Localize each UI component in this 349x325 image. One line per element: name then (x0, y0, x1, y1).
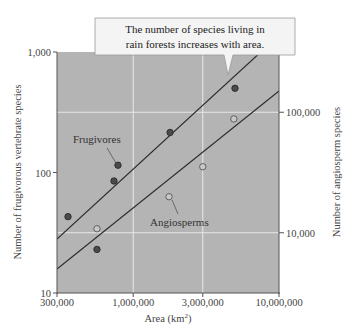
plot-area (57, 52, 279, 293)
y-axis-title: Number of frugivorous vertebrate species (12, 85, 23, 260)
y-tick-label: 10 (41, 288, 52, 299)
angiosperms-label: Angiosperms (150, 216, 209, 228)
frugivores-point (232, 85, 238, 91)
callout-line-2: rain forests increases with area. (126, 38, 265, 50)
y-tick-label: 1,000 (27, 47, 51, 58)
frugivores-point (65, 213, 71, 219)
y2-tick-label: 100,000 (286, 107, 320, 118)
y-tick-label: 100 (35, 168, 51, 179)
angiosperms-point (166, 194, 172, 200)
frugivores-label: Frugivores (73, 133, 121, 145)
frugivores-point (94, 246, 100, 252)
x-tick-label: 3,000,000 (182, 297, 224, 308)
angiosperms-point (94, 226, 100, 232)
frugivores-point (111, 178, 117, 184)
angiosperms-point (200, 164, 206, 170)
x-axis-title: Area (km2) (145, 312, 192, 325)
y2-axis-title: Number of angiosperm species (331, 107, 342, 237)
x-tick-label: 1,000,000 (112, 297, 154, 308)
x-tick-label: 10,000,000 (255, 297, 302, 308)
angiosperms-point (231, 116, 237, 122)
species-area-chart: 300,0001,000,0003,000,00010,000,00010,00… (0, 0, 349, 325)
callout-line-1: The number of species living in (125, 23, 265, 35)
y2-tick-label: 10,000 (286, 228, 315, 239)
frugivores-point (167, 129, 173, 135)
